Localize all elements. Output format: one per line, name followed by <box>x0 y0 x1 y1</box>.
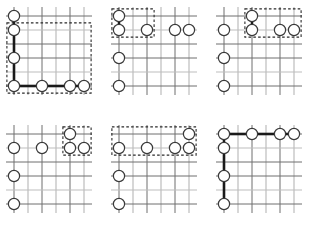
stone <box>169 24 180 35</box>
stone <box>169 142 180 153</box>
stone <box>8 80 19 91</box>
stone <box>8 24 19 35</box>
stone <box>8 142 19 153</box>
stone <box>78 142 89 153</box>
panel-bottom-left <box>0 118 105 236</box>
stone <box>113 10 124 21</box>
go-panels-figure <box>0 0 315 237</box>
stone <box>246 10 257 21</box>
region-boundary-box <box>112 127 196 155</box>
stone <box>36 80 47 91</box>
stone <box>113 198 124 209</box>
stone <box>288 24 299 35</box>
stone <box>64 128 75 139</box>
stone <box>141 24 152 35</box>
stone <box>113 170 124 181</box>
stone <box>36 142 47 153</box>
stone <box>8 198 19 209</box>
stone <box>113 24 124 35</box>
stone <box>113 142 124 153</box>
stone <box>288 128 299 139</box>
panel-top-center <box>105 0 210 118</box>
stone <box>8 170 19 181</box>
stone <box>246 24 257 35</box>
panel-top-left <box>0 0 105 118</box>
stone <box>8 52 19 63</box>
stone <box>274 128 285 139</box>
stone <box>218 24 229 35</box>
stone <box>183 24 194 35</box>
stone <box>64 80 75 91</box>
stone <box>113 80 124 91</box>
stone <box>183 128 194 139</box>
stone <box>113 52 124 63</box>
panel-bottom-right <box>210 118 315 236</box>
stone <box>64 142 75 153</box>
stone <box>141 142 152 153</box>
stone <box>218 80 229 91</box>
stone <box>183 142 194 153</box>
stone <box>218 170 229 181</box>
panel-bottom-center <box>105 118 210 236</box>
stone <box>8 10 19 21</box>
stone <box>218 128 229 139</box>
stone <box>246 128 257 139</box>
stone <box>218 142 229 153</box>
stone <box>78 80 89 91</box>
panel-top-right <box>210 0 315 118</box>
stone <box>274 24 285 35</box>
stone <box>218 198 229 209</box>
stone <box>218 52 229 63</box>
